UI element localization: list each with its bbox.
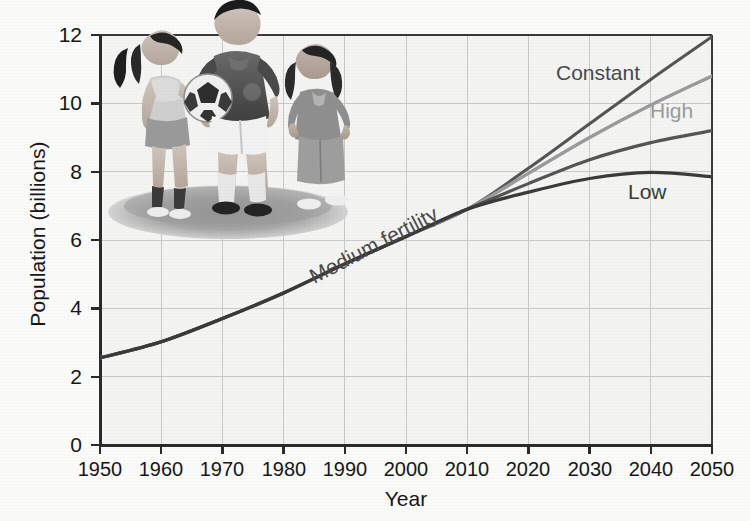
x-tick-label-2040: 2040 [617, 459, 685, 479]
x-tick-label-1960: 1960 [127, 459, 195, 479]
y-tick-label-8: 8 [30, 161, 82, 182]
y-tick-label-6: 6 [30, 229, 82, 250]
x-tick-label-2050: 2050 [678, 459, 746, 479]
y-tick-label-2: 2 [30, 366, 82, 387]
x-tick-label-2010: 2010 [433, 459, 501, 479]
series-label-constant: Constant [556, 62, 640, 83]
x-tick-label-2030: 2030 [556, 459, 624, 479]
y-tick-label-10: 10 [30, 92, 82, 113]
x-tick-label-1950: 1950 [66, 459, 134, 479]
population-projection-figure: Population (billions) Year 12 10 8 6 4 2… [0, 0, 750, 521]
y-tick-label-0: 0 [30, 434, 82, 455]
series-label-high: High [650, 100, 693, 121]
y-tick-label-4: 4 [30, 297, 82, 318]
x-tick-label-1980: 1980 [250, 459, 318, 479]
y-tick-label-12: 12 [30, 24, 82, 45]
x-tick-label-2000: 2000 [372, 459, 440, 479]
series-label-low: Low [628, 181, 667, 202]
x-axis-title: Year [100, 487, 712, 511]
x-tick-label-1990: 1990 [311, 459, 379, 479]
x-tick-label-2020: 2020 [494, 459, 562, 479]
x-tick-label-1970: 1970 [188, 459, 256, 479]
